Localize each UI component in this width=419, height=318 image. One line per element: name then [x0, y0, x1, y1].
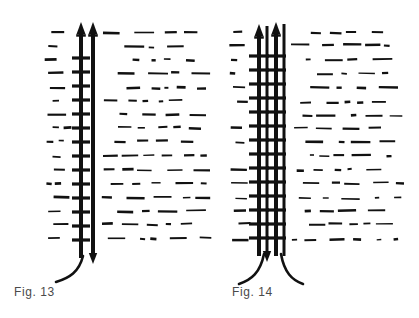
left-rod-arrow-tip [76, 22, 85, 35]
figure-caption-fig14: Fig. 14 [232, 285, 273, 299]
hatch-dash [158, 127, 167, 128]
hatch-dash [330, 33, 342, 34]
hatch-dash [239, 223, 251, 224]
hatch-dash [338, 210, 356, 211]
tail-left [239, 254, 264, 284]
right-rod-arrow-tip [88, 22, 97, 35]
figure-group-fig13 [45, 22, 212, 282]
patent-figure-sheet: Fig. 13 Fig. 14 [0, 0, 419, 318]
hatch-dash [46, 184, 51, 185]
tail-right [281, 254, 303, 284]
right-rod-bottom-arrow [89, 253, 97, 264]
figure-caption-fig13: Fig. 13 [14, 285, 55, 299]
hatch-dash [186, 60, 195, 61]
hatch-dash [189, 128, 201, 129]
hatch-dash [347, 59, 357, 60]
outer-left-rod-arrow-tip [254, 24, 263, 37]
tail-left [56, 256, 83, 282]
hatch-dash [310, 87, 329, 88]
inner-right-rod-arrow-tip [271, 22, 280, 35]
hatch-dash [394, 239, 399, 240]
figure-group-fig14 [229, 22, 404, 284]
hatch-dash [127, 88, 141, 89]
hatch-dash [53, 157, 61, 158]
figure-artwork [0, 0, 419, 318]
